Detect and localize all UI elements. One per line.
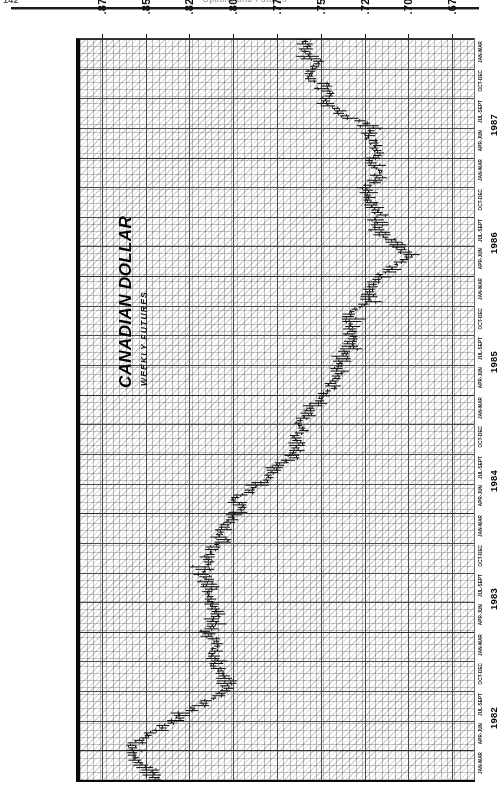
time-axis-year-label: 1982 (488, 707, 499, 729)
time-axis-year-label: 1986 (488, 232, 499, 254)
chart-title: CANADIAN DOLLAR (116, 216, 136, 388)
time-axis-quarter-label: OCT-DEC (478, 545, 483, 566)
time-axis-quarter-label: JAN-MAR (478, 515, 483, 537)
price-tick-label: .775 (271, 0, 283, 15)
time-axis-quarter-label: JAN-MAR (478, 397, 483, 419)
time-axis-quarter-label: JUL-SEPT (478, 219, 483, 242)
time-axis-quarter-label: JUL-SEPT (478, 456, 483, 479)
price-tick-label: .750 (315, 0, 327, 15)
ohlc-series (80, 39, 474, 780)
chart-subtitle: WEEKLY FUTURES (139, 216, 149, 386)
time-axis-quarter-label: APR-JUN (478, 248, 483, 269)
time-axis-quarter-label: JAN-MAR (478, 159, 483, 181)
price-tick-label: .800 (227, 0, 239, 15)
plot-area (80, 39, 474, 780)
time-axis-quarter-label: JUL-SEPT (478, 693, 483, 716)
price-tick-label: .825 (183, 0, 195, 15)
chart-figure: .875.850.825.800.775.750.725.700.675 U.S… (20, 16, 475, 782)
time-axis: JAN-MARAPR-JUNJUL-SEPTOCT-DECJAN-MARAPR-… (476, 39, 501, 780)
time-axis-year-label: 1985 (488, 351, 499, 373)
price-tick-label: .850 (140, 0, 152, 15)
time-axis-quarter-label: OCT-DEC (478, 426, 483, 447)
price-tick-label: .700 (402, 0, 414, 15)
time-axis-quarter-label: JUL-SEPT (478, 337, 483, 360)
time-axis-quarter-label: JAN-MAR (478, 278, 483, 300)
time-axis-quarter-label: JUL-SEPT (478, 100, 483, 123)
time-axis-quarter-label: APR-JUN (478, 367, 483, 388)
time-axis-quarter-label: APR-JUN (478, 604, 483, 625)
price-tick-label: .675 (446, 0, 458, 15)
price-tick-label: .725 (359, 0, 371, 15)
price-tick-label: .875 (96, 0, 108, 15)
time-axis-quarter-label: APR-JUN (478, 130, 483, 151)
time-axis-quarter-label: OCT-DEC (478, 70, 483, 91)
time-axis-quarter-label: OCT-DEC (478, 189, 483, 210)
chart-title-block: CANADIAN DOLLAR WEEKLY FUTURES (116, 216, 149, 388)
time-axis-quarter-label: JAN-MAR (478, 634, 483, 656)
time-axis-quarter-label: OCT-DEC (478, 663, 483, 684)
running-head: Options and Futures (0, 0, 489, 4)
time-axis-quarter-label: OCT-DEC (478, 308, 483, 329)
time-axis-quarter-label: APR-JUN (478, 485, 483, 506)
time-axis-year-label: 1987 (488, 114, 499, 136)
time-axis-quarter-label: JUL-SEPT (478, 574, 483, 597)
time-axis-quarter-label: APR-JUN (478, 723, 483, 744)
time-axis-quarter-label: JAN-MAR (478, 41, 483, 63)
time-axis-year-label: 1984 (488, 470, 499, 492)
time-axis-quarter-label: JAN-MAR (478, 752, 483, 774)
time-axis-year-label: 1983 (488, 588, 499, 610)
